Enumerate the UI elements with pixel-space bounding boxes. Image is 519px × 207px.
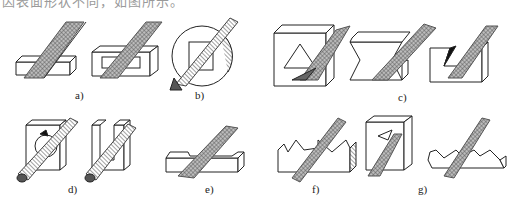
subfigure-f-serrated <box>278 118 356 182</box>
subfigure-b-round-part <box>170 18 238 90</box>
subfigure-a-flat-block <box>16 22 86 78</box>
label-e: e) <box>205 183 214 195</box>
subfigure-d-u-slot <box>85 120 136 182</box>
label-f: f) <box>312 183 319 195</box>
subfigure-c-angled-slot <box>430 26 498 82</box>
label-c: c) <box>398 91 407 103</box>
subfigure-c-triangle-hole <box>274 25 350 86</box>
subfigure-g-serrated-edge <box>428 118 506 178</box>
label-d: d) <box>68 183 77 195</box>
label-a: a) <box>75 89 84 101</box>
filing-diagram <box>0 0 519 207</box>
subfigure-e-step <box>166 126 244 178</box>
subfigure-g-square-hole <box>366 116 412 176</box>
label-g: g) <box>418 183 427 195</box>
subfigure-a-slot-block <box>92 22 162 78</box>
label-b: b) <box>195 89 204 101</box>
subfigure-d-round-hole <box>17 118 78 182</box>
subfigure-c-dovetail <box>350 24 436 80</box>
